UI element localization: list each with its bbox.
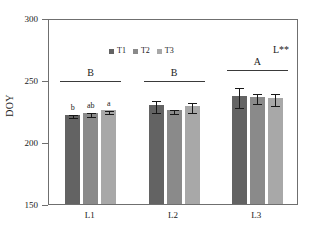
error-bar (192, 103, 193, 113)
bar-significance-letter: a (99, 100, 119, 108)
error-bar (156, 101, 157, 113)
x-tick-label-l1: L1 (60, 210, 120, 220)
legend-label: T1 (117, 47, 126, 55)
bar-l3-t1 (232, 96, 247, 204)
bar-l1-t1 (65, 115, 80, 204)
legend-swatch-icon (157, 49, 162, 54)
bar-l2-t3 (185, 106, 200, 204)
legend-label: T3 (165, 47, 174, 55)
bar-l1-t3 (101, 110, 116, 204)
group-significance-line (60, 81, 121, 82)
legend-label: T2 (141, 47, 150, 55)
group-significance-letter: A (242, 57, 272, 67)
legend-item-t3: T3 (157, 47, 174, 55)
legend-item-t1: T1 (109, 47, 126, 55)
error-cap-lower (152, 113, 161, 114)
y-tick-label: 150 (25, 201, 39, 210)
error-cap-lower (69, 118, 78, 119)
legend-swatch-icon (133, 49, 138, 54)
error-cap-lower (253, 104, 262, 105)
error-cap-upper (271, 94, 280, 95)
bar-significance-letter: b (63, 104, 83, 112)
error-cap-upper (69, 115, 78, 116)
error-cap-lower (271, 106, 280, 107)
y-tick-label: 200 (25, 139, 39, 148)
error-cap-upper (235, 88, 244, 89)
bar-l2-t1 (149, 105, 164, 204)
error-cap-upper (188, 103, 197, 104)
x-tick-label-l3: L3 (226, 210, 286, 220)
error-cap-lower (235, 108, 244, 109)
group-significance-line (144, 81, 205, 82)
bar-significance-letter: ab (81, 102, 101, 110)
error-cap-upper (253, 94, 262, 95)
error-cap-lower (87, 117, 96, 118)
group-significance-line (227, 70, 288, 71)
x-tick-label-l2: L2 (143, 210, 203, 220)
bar-l3-t3 (268, 98, 283, 204)
error-cap-lower (170, 114, 179, 115)
legend-swatch-icon (109, 49, 114, 54)
error-cap-upper (170, 110, 179, 111)
y-axis-title: DOY (4, 84, 15, 128)
error-bar (275, 94, 276, 106)
plot-area: baba BBA T1T2T3 L** (48, 19, 298, 205)
error-cap-upper (105, 111, 114, 112)
chart-legend: T1T2T3 (109, 47, 174, 55)
group-significance-letter: B (159, 68, 189, 78)
y-tick-mark (42, 205, 48, 206)
bar-l1-t2 (83, 113, 98, 204)
error-cap-upper (152, 101, 161, 102)
significance-annotation: L** (273, 45, 289, 55)
legend-item-t2: T2 (133, 47, 150, 55)
bar-l2-t2 (167, 110, 182, 204)
error-cap-upper (87, 113, 96, 114)
group-significance-letter: B (76, 68, 106, 78)
error-cap-lower (188, 113, 197, 114)
y-tick-label: 250 (25, 77, 39, 86)
bar-l3-t2 (250, 97, 265, 204)
y-tick-label: 300 (25, 15, 39, 24)
chart-figure: DOY 300250200150 baba BBA T1T2T3 L** L1L… (0, 0, 310, 239)
error-cap-lower (105, 114, 114, 115)
error-bar (257, 94, 258, 104)
error-bar (239, 88, 240, 108)
